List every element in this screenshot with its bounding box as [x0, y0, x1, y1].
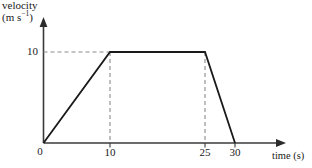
y-axis-units-suffix: ) — [29, 11, 33, 23]
x-axis-label: time (s) — [272, 150, 304, 161]
x-tick-label-10: 10 — [100, 146, 120, 158]
y-axis-arrowhead — [40, 17, 48, 27]
x-tick-label-0: 0 — [33, 145, 47, 157]
x-tick-label-25: 25 — [195, 146, 215, 158]
y-axis-label-line2: (m s−1) — [2, 12, 37, 24]
y-tick-label-10: 10 — [16, 45, 38, 57]
velocity-time-graph — [0, 0, 312, 168]
y-axis-units-prefix: (m s — [2, 11, 21, 23]
y-axis-label-line1: velocity — [2, 0, 37, 11]
y-axis-label: velocity (m s−1) — [2, 0, 37, 24]
x-axis-arrowhead — [276, 139, 286, 147]
velocity-curve — [44, 52, 236, 143]
x-tick-label-30: 30 — [225, 146, 245, 158]
